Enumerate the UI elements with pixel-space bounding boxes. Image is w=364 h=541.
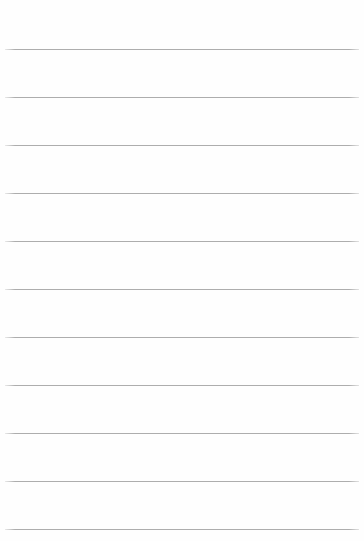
ruled-line — [5, 385, 359, 386]
writing-line[interactable] — [5, 487, 359, 529]
writing-line[interactable] — [5, 391, 359, 433]
ruled-line — [5, 529, 359, 530]
writing-line[interactable] — [5, 103, 359, 145]
ruled-line — [5, 97, 359, 98]
writing-line[interactable] — [5, 439, 359, 481]
writing-line[interactable] — [5, 295, 359, 337]
ruled-line — [5, 433, 359, 434]
ruled-line — [5, 145, 359, 146]
ruled-line — [5, 481, 359, 482]
writing-line[interactable] — [5, 151, 359, 193]
writing-line[interactable] — [5, 343, 359, 385]
writing-line[interactable] — [5, 7, 359, 49]
ruled-line — [5, 49, 359, 50]
document-page — [0, 0, 364, 541]
ruled-line-area — [0, 0, 364, 541]
ruled-line — [5, 193, 359, 194]
ruled-line — [5, 241, 359, 242]
writing-line[interactable] — [5, 199, 359, 241]
writing-line[interactable] — [5, 247, 359, 289]
ruled-line — [5, 289, 359, 290]
writing-line[interactable] — [5, 55, 359, 97]
ruled-line — [5, 337, 359, 338]
